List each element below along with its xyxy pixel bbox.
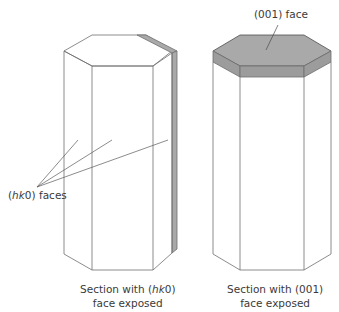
left-caption-line1: Section with (hk0): [80, 282, 176, 296]
crystal-diagram: [0, 0, 339, 312]
hk0-callout-lines: [37, 140, 168, 187]
right-caption-line2: face exposed: [227, 296, 323, 310]
left-hexagonal-prism: [37, 35, 177, 270]
left-prism-caption: Section with (hk0) face exposed: [80, 282, 176, 310]
right-caption-line1: Section with (001): [227, 282, 323, 296]
hk0-faces-label: (hk0) faces: [8, 188, 67, 202]
right-prism-caption: Section with (001) face exposed: [227, 282, 323, 310]
left-caption-line2: face exposed: [80, 296, 176, 310]
right-hexagonal-prism: [213, 25, 331, 270]
right-prism-001-slab-front: [240, 66, 304, 77]
001-face-label: (001) face: [254, 7, 308, 21]
left-prism-exposed-hk0-strip-side: [172, 51, 177, 253]
hk-italic: hk: [12, 189, 25, 201]
